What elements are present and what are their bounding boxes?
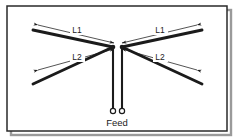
feed-label: Feed bbox=[106, 117, 128, 128]
l1-right-label: L1 bbox=[155, 25, 165, 35]
diagram-canvas: L1 L1 L2 L2 Feed bbox=[0, 0, 237, 139]
l1-left-label: L1 bbox=[72, 25, 82, 35]
l2-right-label: L2 bbox=[155, 52, 165, 62]
feed-terminal-right bbox=[119, 108, 124, 113]
antenna-diagram-figure: L1 L1 L2 L2 Feed bbox=[0, 0, 237, 139]
feed-terminal-left bbox=[110, 108, 115, 113]
l2-left-label: L2 bbox=[72, 52, 82, 62]
figure-background bbox=[7, 6, 227, 131]
